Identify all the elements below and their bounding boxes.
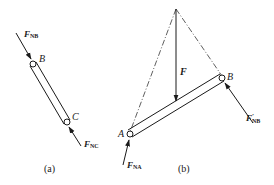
force-label-f-nb: FNB (23, 29, 38, 39)
diagram-canvas: B C FNB FNC (a) B A F F′NB FNA (b) (0, 0, 274, 185)
point-label-b-a: B (39, 53, 45, 64)
caption-b: (b) (178, 163, 190, 175)
force-label-f: F (179, 66, 187, 77)
point-label-c-a: C (72, 111, 79, 122)
pin-a-b (127, 131, 133, 137)
force-label-f-nb-prime: F′NB (245, 112, 260, 124)
pin-b-b (219, 75, 225, 81)
force-label-f-na: FNA (126, 160, 142, 170)
pin-c-a (64, 119, 70, 125)
point-label-b-b: B (227, 71, 233, 82)
figure-a: B C FNB FNC (a) (16, 29, 99, 175)
force-arrow-f-nc (69, 127, 81, 146)
force-label-f-nc: FNC (83, 139, 99, 149)
bar-bc (30, 62, 70, 124)
point-label-a-b: A (117, 128, 125, 139)
pin-b-a (30, 61, 36, 67)
caption-a: (a) (44, 163, 55, 175)
figure-b: B A F F′NB FNA (b) (117, 9, 260, 175)
